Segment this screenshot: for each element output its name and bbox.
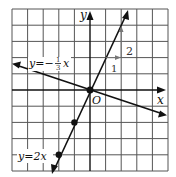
arrow-left-icon <box>12 62 21 69</box>
line-label-neg-third: y=− 1 3 x <box>28 56 71 72</box>
y-axis-label: y <box>79 8 87 22</box>
neg-third-den: 3 <box>56 64 60 72</box>
neg-third-prefix: y=− <box>28 57 54 70</box>
neg-third-num: 1 <box>56 56 60 64</box>
arrow-top-icon <box>122 10 129 20</box>
coordinate-plane: y x O 2 1 y=− 1 3 x y=2x <box>0 0 176 177</box>
x-axis-label: x <box>157 93 164 107</box>
line-label-2x: y=2x <box>17 149 53 163</box>
point-origin <box>87 87 94 94</box>
y-axis-arrow-icon <box>87 11 94 20</box>
y-2x-label: y=2x <box>17 150 47 163</box>
run-label: 1 <box>111 63 117 74</box>
point-neg2-neg4 <box>56 152 62 158</box>
rise-label: 2 <box>126 45 133 58</box>
arrow-right-icon <box>158 111 167 118</box>
origin-label: O <box>92 94 101 107</box>
neg-third-suffix: x <box>63 57 70 70</box>
point-neg1-neg2 <box>71 119 77 125</box>
